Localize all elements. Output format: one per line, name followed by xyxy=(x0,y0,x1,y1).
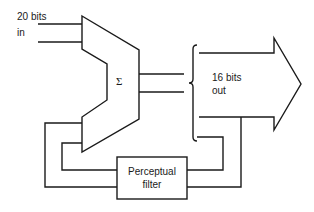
feedback-line-outer-right xyxy=(187,117,241,187)
output-arrow xyxy=(199,38,301,130)
input-lines xyxy=(38,24,82,42)
summer-block xyxy=(82,16,139,152)
filter-label-line2: filter xyxy=(143,179,163,190)
feedback-line-outer-left xyxy=(45,123,117,187)
sigma-symbol: Σ xyxy=(116,75,122,87)
output-label-out: out xyxy=(212,85,226,96)
input-label-bits: 20 bits xyxy=(17,11,46,22)
brace-icon xyxy=(189,45,197,141)
perceptual-filter-block xyxy=(117,157,187,199)
summer-output-lines xyxy=(139,74,184,92)
output-label-bits: 16 bits xyxy=(212,72,241,83)
noise-shaping-diagram: 20 bits in Σ 16 bits out Perceptual filt… xyxy=(0,0,314,212)
input-label-in: in xyxy=(17,27,25,38)
feedback-line-inner-right xyxy=(187,137,223,170)
filter-label-line1: Perceptual xyxy=(128,166,176,177)
